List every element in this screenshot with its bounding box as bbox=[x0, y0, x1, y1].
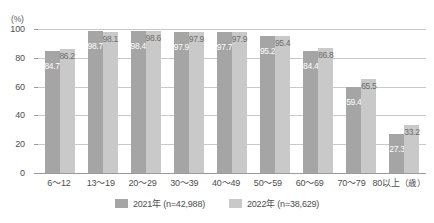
bar-value-label: 98.7 bbox=[87, 42, 102, 51]
bar: 59.4 bbox=[346, 87, 361, 173]
y-axis-unit-label: (%) bbox=[11, 14, 24, 24]
y-tick-label-60: 60 bbox=[0, 82, 25, 92]
bar-value-label: 97.9 bbox=[174, 43, 189, 52]
x-axis-label: 50〜59 bbox=[247, 176, 289, 189]
bar-group: 84.786.2 bbox=[38, 29, 81, 173]
bar-value-label: 65.5 bbox=[361, 82, 376, 91]
y-tick-label-80: 80 bbox=[0, 53, 25, 63]
x-axis-label: 6〜12 bbox=[38, 176, 80, 189]
x-axis-labels: 6〜1213〜1920〜2930〜3940〜4950〜5960〜6970〜798… bbox=[38, 176, 426, 189]
bar-value-label: 33.2 bbox=[404, 128, 419, 137]
bar: 98.7 bbox=[88, 31, 103, 173]
gridline-0 bbox=[38, 173, 426, 174]
x-axis-label: 40〜49 bbox=[205, 176, 247, 189]
bar: 27.3 bbox=[389, 134, 404, 173]
x-axis-label: 80以上（歳） bbox=[372, 176, 426, 189]
bar: 86.8 bbox=[318, 48, 333, 173]
x-axis-label: 30〜39 bbox=[163, 176, 205, 189]
bar: 84.4 bbox=[303, 51, 318, 173]
bar: 98.1 bbox=[103, 32, 118, 173]
x-axis-label: 20〜29 bbox=[122, 176, 164, 189]
bar: 97.9 bbox=[174, 32, 189, 173]
legend-item: 2022年 (n=38,629) bbox=[229, 197, 319, 210]
bar-value-label: 98.4 bbox=[131, 42, 146, 51]
bar-group: 98.798.1 bbox=[81, 29, 124, 173]
legend-item: 2021年 (n=42,988) bbox=[115, 197, 205, 210]
bar-group: 98.498.6 bbox=[124, 29, 167, 173]
bar-group: 59.465.5 bbox=[340, 29, 383, 173]
bar: 65.5 bbox=[361, 79, 376, 173]
x-axis-label: 70〜79 bbox=[331, 176, 373, 189]
bar-value-label: 27.3 bbox=[389, 145, 404, 154]
y-tick-label-0: 0 bbox=[0, 168, 25, 178]
chart-legend: 2021年 (n=42,988)2022年 (n=38,629) bbox=[0, 197, 434, 210]
bar-pair: 84.486.8 bbox=[297, 29, 340, 173]
bar: 95.2 bbox=[260, 36, 275, 173]
bar-value-label: 95.4 bbox=[275, 39, 290, 48]
bar-value-label: 84.4 bbox=[303, 62, 318, 71]
bar-value-label: 97.7 bbox=[217, 43, 232, 52]
bar-value-label: 86.2 bbox=[59, 52, 74, 61]
bar-pair: 27.333.2 bbox=[383, 29, 426, 173]
bar-pair: 98.798.1 bbox=[81, 29, 124, 173]
bar-group: 95.295.4 bbox=[254, 29, 297, 173]
bar-value-label: 97.9 bbox=[189, 35, 204, 44]
bar-group: 97.997.9 bbox=[167, 29, 210, 173]
bar: 97.9 bbox=[232, 32, 247, 173]
bar-value-label: 95.2 bbox=[260, 47, 275, 56]
bar-pair: 98.498.6 bbox=[124, 29, 167, 173]
legend-label: 2022年 (n=38,629) bbox=[247, 197, 319, 210]
bar: 84.7 bbox=[45, 51, 60, 173]
bar-chart: (%) 020406080100 84.786.298.798.198.498.… bbox=[0, 0, 434, 223]
bar-pair: 97.997.9 bbox=[167, 29, 210, 173]
bar: 97.7 bbox=[217, 32, 232, 173]
x-axis-label: 13〜19 bbox=[80, 176, 122, 189]
bar: 95.4 bbox=[275, 36, 290, 173]
x-axis-label: 60〜69 bbox=[289, 176, 331, 189]
y-tick-label-40: 40 bbox=[0, 110, 25, 120]
y-tick-label-20: 20 bbox=[0, 139, 25, 149]
bar-group: 97.797.9 bbox=[210, 29, 253, 173]
bar-pair: 59.465.5 bbox=[340, 29, 383, 173]
bar-value-label: 98.1 bbox=[102, 35, 117, 44]
bar-pair: 95.295.4 bbox=[254, 29, 297, 173]
bar-pair: 84.786.2 bbox=[38, 29, 81, 173]
bar: 86.2 bbox=[60, 49, 75, 173]
bar: 98.4 bbox=[131, 31, 146, 173]
legend-label: 2021年 (n=42,988) bbox=[133, 197, 205, 210]
bar: 98.6 bbox=[146, 31, 161, 173]
bar-group: 27.333.2 bbox=[383, 29, 426, 173]
bar-group: 84.486.8 bbox=[297, 29, 340, 173]
bar-pair: 97.797.9 bbox=[210, 29, 253, 173]
legend-swatch-icon bbox=[115, 199, 128, 208]
plot-area: 020406080100 84.786.298.798.198.498.697.… bbox=[38, 29, 426, 173]
bar-value-label: 59.4 bbox=[346, 98, 361, 107]
legend-swatch-icon bbox=[229, 199, 242, 208]
y-tick-mark-0 bbox=[34, 173, 38, 174]
y-tick-label-100: 100 bbox=[0, 24, 25, 34]
x-axis-unit-label: （歳） bbox=[400, 178, 426, 188]
bar-value-label: 98.6 bbox=[146, 34, 161, 43]
bar: 97.9 bbox=[189, 32, 204, 173]
bar-groups: 84.786.298.798.198.498.697.997.997.797.9… bbox=[38, 29, 426, 173]
bar-value-label: 86.8 bbox=[318, 51, 333, 60]
bar-value-label: 97.9 bbox=[232, 35, 247, 44]
bar: 33.2 bbox=[404, 125, 419, 173]
bar-value-label: 84.7 bbox=[44, 62, 59, 71]
